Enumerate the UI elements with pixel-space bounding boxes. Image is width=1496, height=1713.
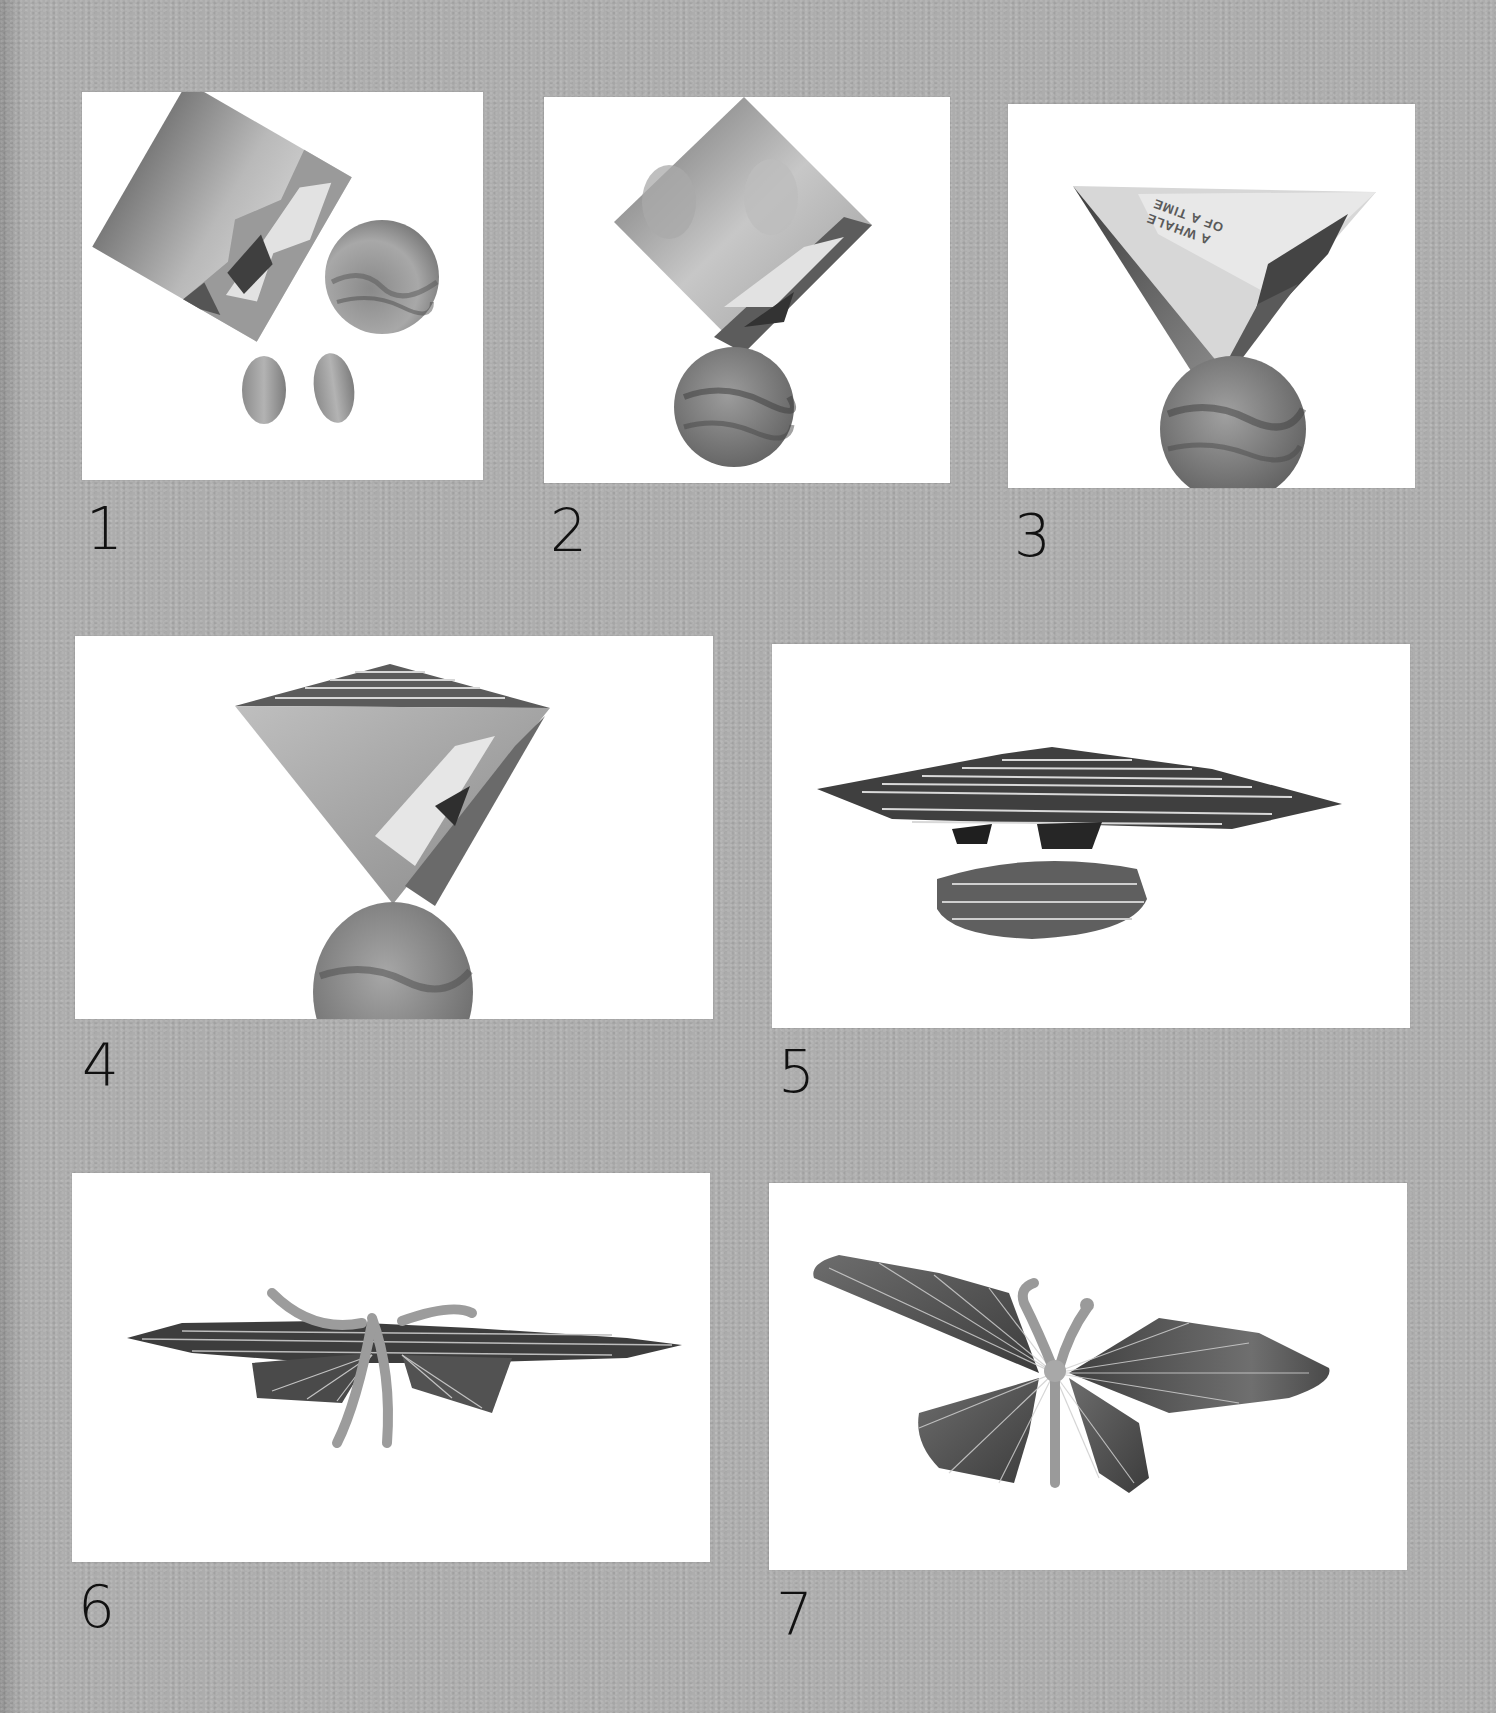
paper-pieces-illustration xyxy=(82,92,483,480)
concertina-folded-pieces-illustration xyxy=(772,644,1410,1028)
step-5-number: 5 xyxy=(778,1043,815,1101)
step-7-number: 7 xyxy=(776,1586,813,1644)
instruction-page: 1 2 xyxy=(0,0,1496,1713)
step-4-number: 4 xyxy=(82,1036,119,1094)
finished-butterfly-illustration xyxy=(769,1183,1407,1570)
step-3-number: 3 xyxy=(1014,507,1051,565)
step-2-photo xyxy=(544,97,950,483)
step-2-number: 2 xyxy=(550,502,587,560)
step-3-photo: A WHALE OF A TIME xyxy=(1008,104,1415,488)
step-4-photo xyxy=(75,636,713,1019)
step-1-number: 1 xyxy=(86,500,123,558)
step-7-photo xyxy=(769,1183,1407,1570)
pipe-cleaner-joined-wings-illustration xyxy=(72,1173,710,1562)
diamond-with-circle-illustration xyxy=(544,97,950,483)
step-6-photo xyxy=(72,1173,710,1562)
step-5-photo xyxy=(772,644,1410,1028)
folded-triangle-illustration: A WHALE OF A TIME xyxy=(1008,104,1415,488)
step-1-photo xyxy=(82,92,483,480)
pleated-triangle-illustration xyxy=(75,636,713,1019)
step-6-number: 6 xyxy=(78,1578,115,1636)
